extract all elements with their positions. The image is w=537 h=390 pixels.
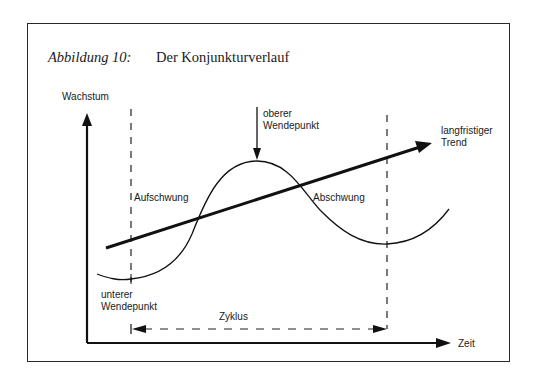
lower-turning-point-label-1: unterer	[101, 289, 133, 300]
y-axis-arrow-icon	[82, 113, 92, 126]
trend-arrow-icon	[415, 141, 432, 153]
y-axis-label: Wachstum	[62, 91, 109, 102]
upper-turning-point-label-2: Wendepunkt	[263, 120, 319, 131]
business-cycle-curve	[97, 161, 449, 280]
trend-label-2: Trend	[441, 137, 467, 148]
lower-turning-point-label-2: Wendepunkt	[101, 301, 157, 312]
trend-label-1: langfristiger	[441, 125, 493, 136]
cycle-right-arrow-icon	[373, 325, 387, 333]
x-axis-label: Zeit	[458, 338, 475, 349]
cycle-label: Zyklus	[219, 311, 248, 322]
business-cycle-diagram: Wachstum Zeit oberer Wendepunkt langfris…	[0, 0, 537, 390]
upper-turning-arrow-icon	[253, 148, 261, 160]
upswing-label: Aufschwung	[134, 192, 188, 203]
upper-turning-point-label-1: oberer	[263, 108, 293, 119]
x-axis-arrow-icon	[436, 338, 451, 348]
cycle-left-arrow-icon	[132, 325, 146, 333]
downswing-label: Abschwung	[313, 192, 365, 203]
